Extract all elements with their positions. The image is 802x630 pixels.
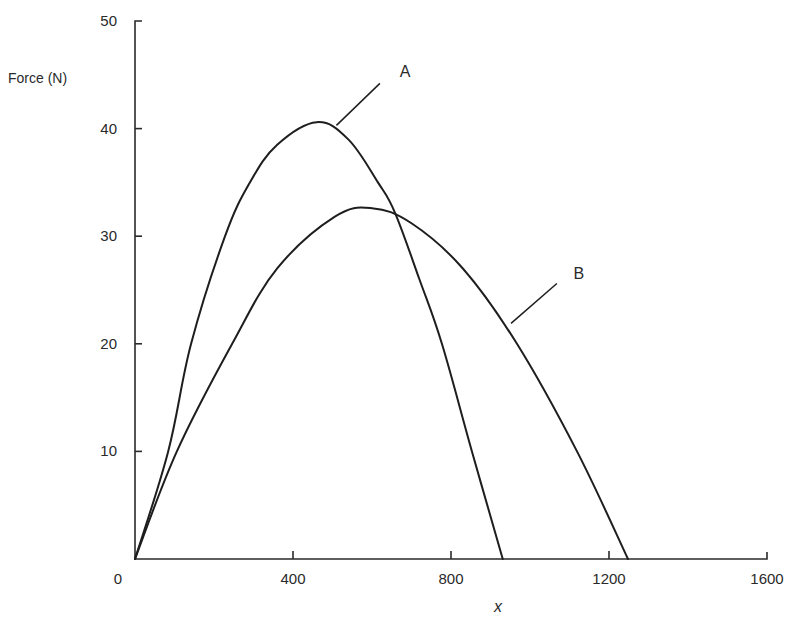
curve-a (135, 122, 503, 559)
curve-b (135, 208, 628, 559)
leader-line-b (511, 284, 557, 324)
y-tick-label: 30 (100, 227, 117, 244)
x-tick-label: 400 (280, 570, 305, 587)
y-tick-label: 10 (100, 442, 117, 459)
x-axis-title: x (493, 598, 503, 615)
force-chart: 1020304050 040080012001600 Force (N) x A… (0, 0, 802, 630)
x-tick-label: 1200 (592, 570, 625, 587)
x-tick-label: 0 (114, 570, 122, 587)
y-tick-label: 20 (100, 335, 117, 352)
y-tick-label: 40 (100, 120, 117, 137)
series-annotations: A B (336, 63, 584, 323)
series-label-b: B (573, 265, 584, 282)
x-tick-label: 1600 (750, 570, 783, 587)
leader-line-a (336, 83, 379, 125)
y-axis-title: Force (N) (8, 70, 67, 86)
series-label-a: A (400, 63, 411, 80)
y-tick-label: 50 (100, 12, 117, 29)
x-ticks: 040080012001600 (114, 551, 784, 587)
x-tick-label: 800 (438, 570, 463, 587)
y-axis-line (135, 21, 142, 559)
curves (135, 122, 628, 559)
